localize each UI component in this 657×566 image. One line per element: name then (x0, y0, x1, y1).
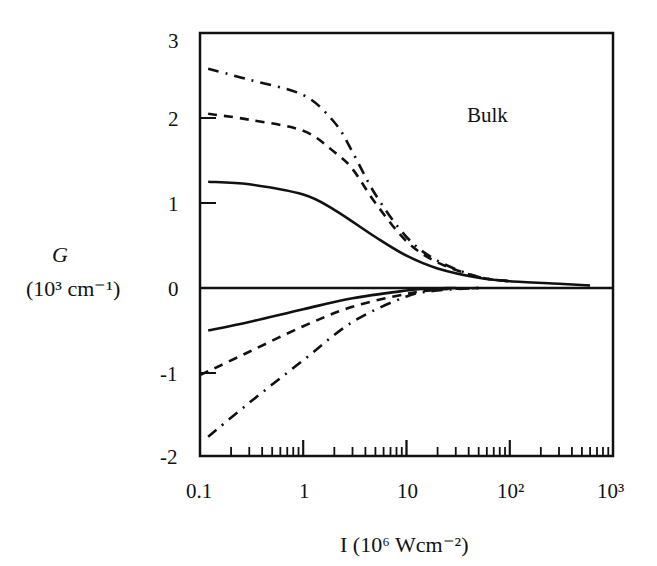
y-axis-title-symbol: G (52, 242, 68, 267)
series-solid-positive (208, 182, 590, 286)
y-tick-label-3: 3 (168, 29, 179, 53)
x-tick-label-100: 10² (497, 479, 524, 503)
series-dashdot-negative (208, 288, 478, 437)
plot-frame (200, 33, 613, 456)
x-tick-label-1: 1 (299, 479, 310, 503)
x-tick-label-1000: 10³ (597, 479, 624, 503)
y-axis-ticks (200, 33, 216, 373)
x-tick-label-0.1: 0.1 (186, 479, 212, 503)
y-tick-label-2: 2 (168, 107, 179, 131)
data-series (200, 69, 590, 437)
x-axis-ticks (200, 440, 613, 456)
y-tick-label-minus-1: -1 (160, 362, 178, 386)
y-tick-label-0: 0 (168, 277, 179, 301)
x-tick-label-10: 10 (397, 479, 418, 503)
y-axis-title-unit: (10³ cm⁻¹) (26, 276, 120, 301)
y-tick-label-minus-2: -2 (160, 445, 178, 469)
series-dashed-positive (208, 114, 510, 281)
y-tick-label-1: 1 (168, 192, 179, 216)
series-solid-negative (208, 288, 456, 331)
bulk-annotation: Bulk (467, 103, 508, 127)
line-chart: Bulk 3 2 1 0 -1 -2 0.1 1 10 10² 10³ G (1… (0, 0, 657, 566)
series-dashdot-positive (208, 69, 510, 282)
x-axis-title: I (10⁶ Wcm⁻²) (340, 532, 469, 557)
